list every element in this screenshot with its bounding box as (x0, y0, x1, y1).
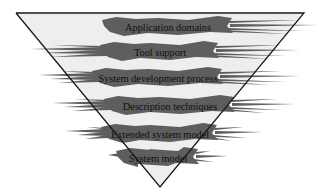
band-spike (108, 153, 120, 157)
band-spike (232, 103, 295, 106)
band-spike (213, 135, 248, 138)
layer-label-tool-support: Tool support (134, 46, 186, 57)
band-spike (52, 101, 108, 105)
layer-label-system-model: System model (129, 152, 188, 163)
layer-label-description-techniques: Description techniques (123, 100, 217, 111)
band-spike (64, 104, 110, 108)
band-spike (230, 99, 277, 102)
band-spike (211, 137, 232, 141)
layer-label-application-domains: Application domains (125, 21, 211, 32)
layer-label-extended-system-model: Extended system model (111, 128, 209, 139)
layer-label-system-development-process: System development process (98, 72, 217, 83)
band-spike (77, 132, 107, 136)
inverted-pyramid-diagram: Application domains Tool support System … (0, 0, 332, 195)
band-spike (213, 127, 244, 130)
band-spike (228, 109, 265, 113)
band-spike (194, 159, 214, 162)
band-spike (215, 131, 262, 134)
band-spike (65, 129, 105, 133)
band-spike (220, 75, 300, 78)
band-spike (230, 107, 281, 110)
band-spike (196, 155, 228, 158)
